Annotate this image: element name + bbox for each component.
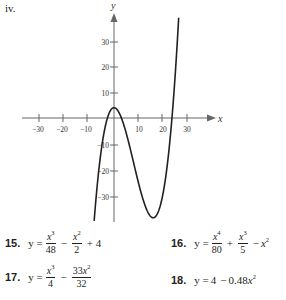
svg-text:10: 10 [102,89,110,98]
operator: − [220,274,226,286]
operator: − [253,237,259,249]
exercise-15: 15. y = x348 − x22 + 4 [5,230,103,255]
svg-text:30: 30 [102,38,110,47]
y-axis-arrow-icon [111,13,118,22]
operator: − [60,271,66,283]
x-axis-arrow-icon [207,115,216,122]
svg-text:20: 20 [159,125,167,134]
lhs: y = [28,237,42,249]
svg-text:−30: −30 [97,193,109,202]
svg-text:−10: −10 [80,125,92,134]
term: 0.48x2 [228,273,255,286]
y-axis-label: y [110,0,116,11]
svg-text:−20: −20 [56,125,68,134]
exercise-17: 17. y = x34 − 33x232 [5,264,94,289]
operator: + [227,237,233,249]
constant: 4 [211,274,217,286]
exercise-16: 16. y = x480 + x35 − x2 [171,230,269,255]
fraction: x480 [212,230,222,255]
x-axis-label: x [217,113,223,124]
constant-term: + 4 [87,237,101,249]
fraction: 33x232 [72,264,92,289]
curve-line [94,18,179,221]
fraction: x348 [46,230,56,255]
fraction: x22 [72,230,82,255]
lhs: y = [194,237,208,249]
lhs: y = [194,274,208,286]
fraction: x34 [46,264,56,289]
lhs: y = [28,271,42,283]
exercise-number: 15. [5,237,20,249]
x-tick-labels: −30 −20 −10 10 20 30 [32,125,191,134]
cubic-graph: x y −30 −20 −10 10 20 30 30 20 10 −10 −2… [0,0,286,230]
exercise-number: 16. [171,237,186,249]
operator: − [61,237,67,249]
fraction: x35 [238,230,248,255]
svg-text:10: 10 [135,125,143,134]
svg-text:20: 20 [102,63,110,72]
term: x2 [261,236,269,249]
exercise-number: 18. [171,274,186,286]
svg-text:−10: −10 [97,141,109,150]
svg-text:−30: −30 [32,125,44,134]
exercise-number: 17. [5,271,20,283]
svg-text:30: 30 [183,125,191,134]
exercise-18: 18. y = 4 − 0.48x2 [171,273,256,286]
